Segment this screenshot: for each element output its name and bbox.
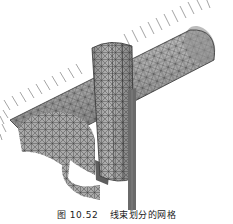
vertical-cylinder <box>92 42 136 210</box>
figure-number: 图 10.52 <box>57 210 98 220</box>
figure-title: 线束划分的网格 <box>110 210 177 220</box>
mesh-figure <box>0 0 233 210</box>
lower-shell <box>18 112 110 200</box>
figure-caption: 图 10.52 线束划分的网格 <box>0 208 233 221</box>
